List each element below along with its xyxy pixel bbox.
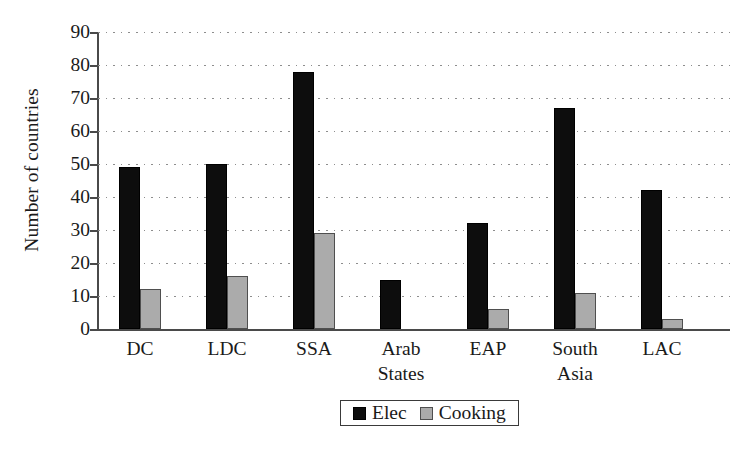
y-axis-tick-mark <box>90 230 97 232</box>
plot-area <box>97 32 730 329</box>
legend-item-cooking[interactable]: Cooking <box>417 403 509 423</box>
bar-elec-eap <box>467 223 488 329</box>
y-axis-tick-label: 0 <box>52 319 90 339</box>
bar-group <box>380 32 422 329</box>
x-axis-category-labels: DCLDCSSAArabStatesEAPSouthAsiaLAC <box>97 336 730 394</box>
x-axis-label-ldc: LDC <box>208 336 247 361</box>
y-axis-tick-labels: 9080706050403020100 <box>52 32 90 329</box>
y-axis-tick-mark <box>90 131 97 133</box>
bar-group <box>119 32 161 329</box>
bar-elec-lac <box>641 190 662 329</box>
bar-cooking-dc <box>140 289 161 329</box>
y-axis-title: Number of countries <box>12 0 52 340</box>
chart-legend: ElecCooking <box>340 400 519 426</box>
x-axis-label-lac: LAC <box>643 336 682 361</box>
legend-swatch-elec <box>353 407 366 420</box>
y-axis-tick-label: 40 <box>52 187 90 207</box>
legend-swatch-cooking <box>420 407 433 420</box>
y-axis-tick-mark <box>90 98 97 100</box>
y-axis-tick-label: 80 <box>52 55 90 75</box>
bar-group <box>554 32 596 329</box>
bar-elec-ssa <box>293 72 314 329</box>
y-axis-tick-mark <box>90 263 97 265</box>
bar-elec-arab-states <box>380 280 401 330</box>
bar-group <box>293 32 335 329</box>
y-axis-tick-mark <box>90 65 97 67</box>
x-axis-label-ssa: SSA <box>296 336 332 361</box>
y-axis-tick-mark <box>90 164 97 166</box>
y-axis-line <box>97 32 99 329</box>
y-axis-tick-label: 10 <box>52 286 90 306</box>
x-axis-label-arab-states: ArabStates <box>378 336 425 386</box>
y-axis-tick-label: 90 <box>52 22 90 42</box>
y-axis-tick-label: 30 <box>52 220 90 240</box>
bar-cooking-eap <box>488 309 509 329</box>
bar-elec-south-asia <box>554 108 575 329</box>
legend-item-elec[interactable]: Elec <box>350 403 410 423</box>
bar-group <box>641 32 683 329</box>
bar-cooking-lac <box>662 319 683 329</box>
bar-cooking-ssa <box>314 233 335 329</box>
x-axis-label-south-asia: SouthAsia <box>552 336 598 386</box>
y-axis-tick-mark <box>90 329 97 331</box>
bar-cooking-south-asia <box>575 293 596 329</box>
y-axis-tick-label: 70 <box>52 88 90 108</box>
bar-group <box>467 32 509 329</box>
x-axis-label-dc: DC <box>126 336 153 361</box>
bar-group <box>206 32 248 329</box>
y-axis-tick-label: 60 <box>52 121 90 141</box>
x-axis-label-eap: EAP <box>470 336 507 361</box>
bar-chart: Number of countries 9080706050403020100 … <box>0 0 753 461</box>
bar-elec-dc <box>119 167 140 329</box>
bar-cooking-ldc <box>227 276 248 329</box>
y-axis-tick-mark <box>90 32 97 34</box>
legend-label: Cooking <box>439 403 506 423</box>
x-axis-line <box>91 329 730 331</box>
y-axis-tick-mark <box>90 197 97 199</box>
y-axis-tick-label: 50 <box>52 154 90 174</box>
y-axis-tick-label: 20 <box>52 253 90 273</box>
y-axis-tick-mark <box>90 296 97 298</box>
bar-elec-ldc <box>206 164 227 329</box>
legend-label: Elec <box>372 403 407 423</box>
